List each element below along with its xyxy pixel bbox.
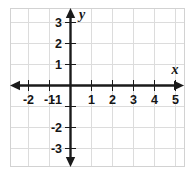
x-tick-label: -2 [23,93,34,107]
y-axis-label: y [77,7,86,22]
y-tick-label: -3 [51,142,62,156]
x-tick-label: 4 [151,93,158,107]
x-tick-label: 2 [109,93,116,107]
y-tick-label: 3 [55,16,62,30]
y-tick-label: 2 [55,37,62,51]
coordinate-plane-figure: -2 -1 1 2 3 4 5 3 2 1 -1 -2 -3 y x [0,0,196,175]
y-tick-label: -2 [51,121,62,135]
y-tick-label: 1 [55,58,62,72]
x-axis-label: x [171,62,179,77]
x-tick-label: 1 [88,93,95,107]
x-tick-label: 3 [130,93,137,107]
y-tick-label: -1 [51,93,62,107]
x-tick-label: 5 [172,93,179,107]
coordinate-plane-svg: -2 -1 1 2 3 4 5 3 2 1 -1 -2 -3 y x [0,0,196,175]
